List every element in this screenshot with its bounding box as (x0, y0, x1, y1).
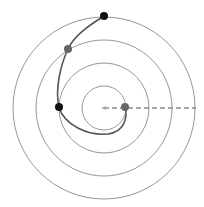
inner-point (121, 103, 129, 111)
upper-mid-point (64, 45, 72, 53)
left-point (55, 103, 63, 111)
outer-point (100, 12, 108, 20)
spiral-path (58, 16, 126, 134)
orbit-diagram (0, 0, 204, 207)
arrow-head-icon (101, 106, 106, 110)
diagram-canvas (0, 0, 204, 207)
